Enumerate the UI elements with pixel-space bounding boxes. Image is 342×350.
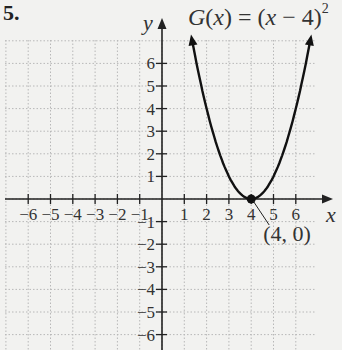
x-tick-label: 3 (225, 205, 234, 224)
y-tick-label: 6 (147, 54, 156, 73)
y-axis-label: y (141, 10, 153, 35)
y-tick-label: −3 (137, 258, 155, 277)
x-axis-label: x (325, 202, 336, 227)
x-tick-label: 1 (180, 205, 189, 224)
y-axis-arrow-icon (158, 18, 167, 29)
x-tick-label: −6 (19, 205, 37, 224)
x-tick-label: −4 (64, 205, 83, 224)
y-tick-label: 3 (147, 122, 156, 141)
graph-figure: 5. G(x) = (x − 4)2 xy−6−5−4−3−2−1123456−… (0, 0, 342, 350)
y-tick-label: −1 (137, 213, 155, 232)
x-tick-label: −2 (108, 205, 126, 224)
y-tick-label: 2 (147, 145, 156, 164)
vertex-annotation-label: (4, 0) (263, 221, 311, 246)
y-tick-label: 4 (147, 100, 156, 119)
parabola-curve (192, 40, 310, 199)
y-tick-label: −4 (137, 280, 156, 299)
curve-arrow-icon (189, 34, 198, 46)
x-tick-label: 4 (247, 205, 256, 224)
y-tick-label: −6 (137, 326, 155, 345)
curve-arrow-icon (305, 34, 314, 46)
coordinate-plane: xy−6−5−4−3−2−1123456−6−5−4−3−2−1123456(4… (0, 0, 342, 350)
y-tick-label: −5 (137, 303, 155, 322)
x-tick-label: 2 (202, 205, 211, 224)
x-tick-label: −3 (86, 205, 104, 224)
y-tick-label: 5 (147, 77, 156, 96)
x-tick-label: −5 (41, 205, 59, 224)
y-tick-label: −2 (137, 235, 155, 254)
y-tick-label: 1 (147, 167, 156, 186)
